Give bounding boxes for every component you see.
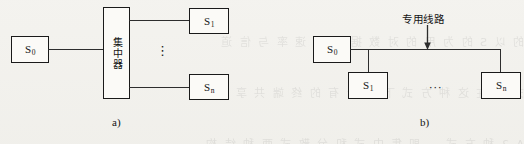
bleed-line: A 2 种 方 式 ， 即 集 中 式 和 分 散 式 两 种 结 构	[0, 136, 524, 144]
caption-b: b)	[420, 116, 429, 128]
node-box-s1-b: S1	[348, 72, 388, 99]
node-box-s0-a: S0	[11, 36, 49, 63]
node-box-concentrator: 集中器	[103, 7, 130, 99]
node-label-s0-a: S0	[25, 44, 35, 55]
dedicated-line-annotation: 专用线路	[402, 11, 444, 26]
annotation-arrow-icon	[421, 25, 434, 50]
node-box-s1-a: S1	[189, 8, 229, 34]
drop-line-s1	[368, 49, 369, 73]
node-box-sn-b: Sn	[481, 72, 521, 99]
node-label-s1-a: S1	[204, 16, 214, 27]
link-concentrator-to-s1	[129, 20, 190, 21]
concentrator-label: 集中器	[110, 37, 124, 70]
node-label-s1-b: S1	[363, 80, 373, 91]
horizontal-ellipsis-b: ···	[429, 82, 443, 93]
link-s0-to-concentrator	[48, 49, 104, 50]
node-label-sn-a: Sn	[204, 82, 214, 93]
link-concentrator-to-sn	[129, 87, 190, 88]
vertical-ellipsis-a: ⋮	[156, 44, 169, 57]
node-box-s0-b: S0	[313, 36, 351, 63]
figure-root: 的 以 S 的 为 用 的 对 数 据 传 输 速 率 与 信 道 式 。 在 …	[0, 0, 524, 144]
caption-a: a)	[112, 116, 121, 128]
drop-line-sn	[500, 49, 501, 73]
node-box-sn-a: Sn	[189, 74, 229, 100]
bleed-line: 式 。 在 这 种 方 式 下 ， 所 有 的 终 端 共 享 一 条	[0, 85, 524, 102]
node-label-sn-b: Sn	[496, 80, 506, 91]
page-bleed-through: 的 以 S 的 为 用 的 对 数 据 传 输 速 率 与 信 道 式 。 在 …	[0, 0, 524, 144]
shared-bus-line	[350, 49, 501, 50]
node-label-s0-b: S0	[327, 44, 337, 55]
